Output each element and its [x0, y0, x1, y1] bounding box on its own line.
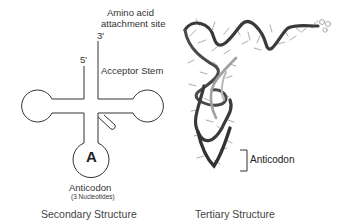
tertiary-structure-caption: Tertiary Structure — [195, 208, 275, 220]
five-prime-label: 5' — [80, 54, 87, 65]
anticodon-sublabel: (3 Nucleotides) — [71, 193, 115, 200]
amino-acid-label-line2: attachment site — [101, 18, 165, 29]
anticodon-label-tertiary: Anticodon — [250, 154, 294, 165]
anticodon-letter: A — [84, 148, 99, 165]
secondary-structure-diagram — [0, 0, 345, 224]
acceptor-stem-label: Acceptor Stem — [101, 65, 163, 76]
tertiary-structure-model — [185, 19, 331, 166]
secondary-structure-caption: Secondary Structure — [41, 208, 137, 220]
anticodon-bracket — [240, 150, 247, 171]
three-prime-label: 3' — [97, 30, 104, 41]
amino-acid-label-line1: Amino acid — [107, 7, 154, 18]
anticodon-label-secondary: Anticodon — [69, 182, 111, 193]
